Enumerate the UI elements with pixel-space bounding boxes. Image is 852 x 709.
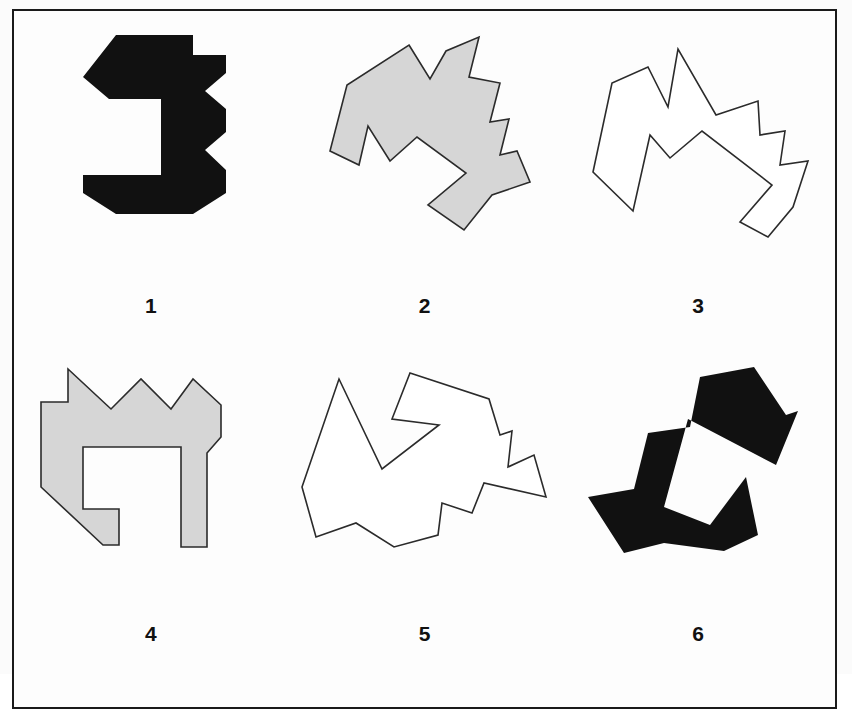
- figure-2-polygon: [330, 37, 530, 230]
- figure-3-label: 3: [692, 295, 704, 316]
- figure-4-graphic: [21, 357, 281, 609]
- figure-1-label: 1: [145, 295, 157, 316]
- figure-panel-2: 2: [288, 11, 562, 343]
- figure-2-graphic: [294, 25, 554, 277]
- figure-1-polygon: [83, 35, 226, 214]
- figure-4-label: 4: [145, 623, 157, 644]
- figure-panel-6: 6: [561, 343, 835, 675]
- figure-panel-4: 4: [14, 343, 288, 675]
- figure-5-label: 5: [419, 623, 431, 644]
- figure-3-graphic: [568, 25, 828, 277]
- figure-panel-3: 3: [561, 11, 835, 343]
- figure-3-polygon: [593, 49, 808, 237]
- figure-6-polygon: [588, 367, 798, 553]
- figure-2-label: 2: [419, 295, 431, 316]
- figure-5-polygon: [302, 373, 546, 547]
- figure-6-graphic: [568, 357, 828, 609]
- figure-1-graphic: [21, 25, 281, 277]
- figure-panel-1: 1: [14, 11, 288, 343]
- figure-panel-grid: 1 2 3 4 5: [14, 11, 835, 674]
- figure-6-label: 6: [692, 623, 704, 644]
- figure-4-polygon: [41, 369, 221, 547]
- figure-panel-5: 5: [288, 343, 562, 675]
- figure-5-graphic: [294, 357, 554, 609]
